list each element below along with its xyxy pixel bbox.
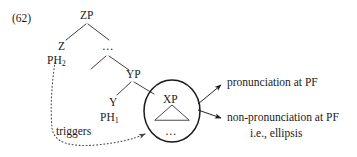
arrow-to-non-pronunciation bbox=[198, 110, 221, 118]
xp-triangle bbox=[155, 105, 189, 120]
arrow-to-pronunciation bbox=[198, 85, 221, 104]
node-ellipsis-mid: … bbox=[102, 41, 115, 53]
syntax-tree-figure: (62) ZP Z PH2 … YP Y PH1 XP … triggers p… bbox=[0, 0, 357, 157]
branch-ellipsis-left bbox=[91, 56, 106, 69]
node-xp: XP bbox=[163, 94, 178, 106]
node-ph2: PH2 bbox=[47, 55, 66, 68]
figure-number: (62) bbox=[12, 13, 31, 25]
branch-zp-ellipsis bbox=[88, 24, 109, 40]
node-ph2-subscript: 2 bbox=[62, 59, 66, 68]
node-xp-dots: … bbox=[165, 126, 178, 138]
node-ph1: PH1 bbox=[100, 112, 119, 125]
node-zp: ZP bbox=[80, 10, 93, 22]
node-z: Z bbox=[58, 41, 65, 53]
outcome-non-pronunciation-gloss: i.e., ellipsis bbox=[250, 128, 302, 140]
branch-yp-y bbox=[117, 82, 131, 95]
node-y: Y bbox=[109, 97, 117, 109]
triggers-label: triggers bbox=[56, 126, 91, 138]
node-ph2-label: PH bbox=[47, 54, 62, 66]
outcome-pronunciation-text: pronunciation at PF bbox=[227, 77, 318, 89]
outcome-non-pronunciation-text: non-pronunciation at PF bbox=[227, 112, 339, 124]
node-ph1-subscript: 1 bbox=[115, 116, 119, 125]
node-ph1-label: PH bbox=[100, 111, 115, 123]
branch-yp-xp bbox=[134, 82, 154, 94]
branch-zp-z bbox=[66, 24, 86, 40]
node-yp: YP bbox=[126, 69, 141, 81]
